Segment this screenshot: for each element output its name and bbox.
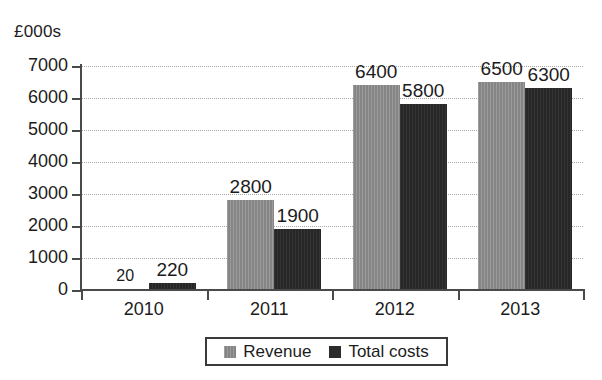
- legend-label-revenue: Revenue: [243, 342, 311, 362]
- x-axis-label-2011: 2011: [207, 299, 333, 320]
- y-tick-1000: [72, 258, 82, 260]
- plot-area: 20220280019006400580065006300: [81, 66, 583, 290]
- y-tick-label-4000: 4000: [4, 151, 68, 172]
- y-tick-label-2000: 2000: [4, 215, 68, 236]
- data-label-2012-total-costs: 5800: [394, 80, 453, 102]
- total-costs-swatch-icon: [329, 346, 341, 358]
- bar-2011-total-costs: [274, 229, 321, 290]
- revenue-swatch-icon: [224, 346, 236, 358]
- y-tick-3000: [72, 194, 82, 196]
- data-label-2013-total-costs: 6300: [519, 64, 578, 86]
- y-tick-6000: [72, 98, 82, 100]
- bar-2012-total-costs: [400, 104, 447, 290]
- y-axis-unit-label: £000s: [14, 22, 61, 42]
- x-tick-4: [583, 289, 585, 300]
- data-label-2010-total-costs: 220: [143, 259, 202, 281]
- y-tick-4000: [72, 162, 82, 164]
- y-tick-label-5000: 5000: [4, 119, 68, 140]
- y-tick-5000: [72, 130, 82, 132]
- bar-2012-revenue: [353, 85, 400, 290]
- y-tick-7000: [72, 66, 82, 68]
- x-axis-label-2013: 2013: [458, 299, 584, 320]
- chart-legend: Revenue Total costs: [205, 337, 448, 366]
- y-tick-label-7000: 7000: [4, 55, 68, 76]
- bar-2013-total-costs: [525, 88, 572, 290]
- x-axis-label-2010: 2010: [81, 299, 207, 320]
- y-tick-label-6000: 6000: [4, 87, 68, 108]
- data-label-2011-total-costs: 1900: [268, 205, 327, 227]
- y-tick-label-3000: 3000: [4, 183, 68, 204]
- legend-item-revenue: Revenue: [224, 342, 311, 362]
- y-tick-label-0: 0: [4, 279, 68, 300]
- legend-label-total-costs: Total costs: [348, 342, 428, 362]
- bar-2011-revenue: [227, 200, 274, 290]
- x-axis-label-2012: 2012: [332, 299, 458, 320]
- y-tick-label-1000: 1000: [4, 247, 68, 268]
- legend-item-total-costs: Total costs: [329, 342, 428, 362]
- y-tick-2000: [72, 226, 82, 228]
- data-label-2011-revenue: 2800: [221, 176, 280, 198]
- bar-chart: £000s 20220280019006400580065006300 0100…: [0, 0, 602, 380]
- bar-2013-revenue: [478, 82, 525, 290]
